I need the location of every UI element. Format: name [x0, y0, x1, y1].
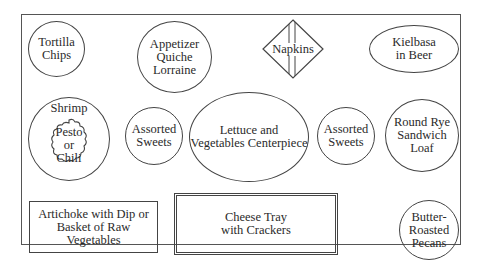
label-line: Loaf [394, 142, 450, 155]
label-line: Pecans [409, 237, 449, 250]
label-line: Butter- [409, 211, 449, 224]
label-line: Sweets [324, 136, 368, 149]
sweets-left-node: Assorted Sweets [125, 107, 183, 165]
quiche-node: Appetizer Quiche Lorraine [137, 21, 212, 93]
shrimp-sauce-label: Pesto or Chili [46, 118, 92, 172]
artichoke-node: Artichoke with Dip or Basket of Raw Vege… [29, 201, 158, 253]
label-line: Pesto [55, 126, 82, 139]
label-line: Basket of Raw Vegetables [30, 221, 157, 247]
label-line: or [55, 139, 82, 152]
tortilla-chips-node: Tortilla Chips [28, 21, 85, 77]
label-line: Chili [55, 152, 82, 165]
sweets-right-node: Assorted Sweets [317, 107, 375, 165]
label-line: Quiche [150, 51, 199, 64]
label-line: Appetizer [150, 38, 199, 51]
label-line: Napkins [271, 43, 315, 56]
napkins-label: Napkins [263, 20, 323, 78]
pecans-node: Butter- Roasted Pecans [399, 200, 459, 260]
kielbasa-node: Kielbasa in Beer [369, 25, 459, 73]
label-line: Roasted [409, 224, 449, 237]
label-line: Chips [38, 49, 75, 62]
label-line: Shrimp [51, 102, 88, 115]
label-line: Vegetables Centerpiece [191, 137, 308, 150]
label-line: with Crackers [221, 224, 291, 237]
centerpiece-node: Lettuce and Vegetables Centerpiece [189, 92, 309, 182]
label-line: in Beer [392, 49, 436, 62]
label-line: Artichoke with Dip or [30, 208, 157, 221]
cheese-tray-node: Cheese Tray with Crackers [174, 193, 338, 255]
rye-loaf-node: Round Rye Sandwich Loaf [385, 99, 459, 172]
label-line: Sweets [132, 136, 176, 149]
label-line: Lorraine [150, 64, 199, 77]
